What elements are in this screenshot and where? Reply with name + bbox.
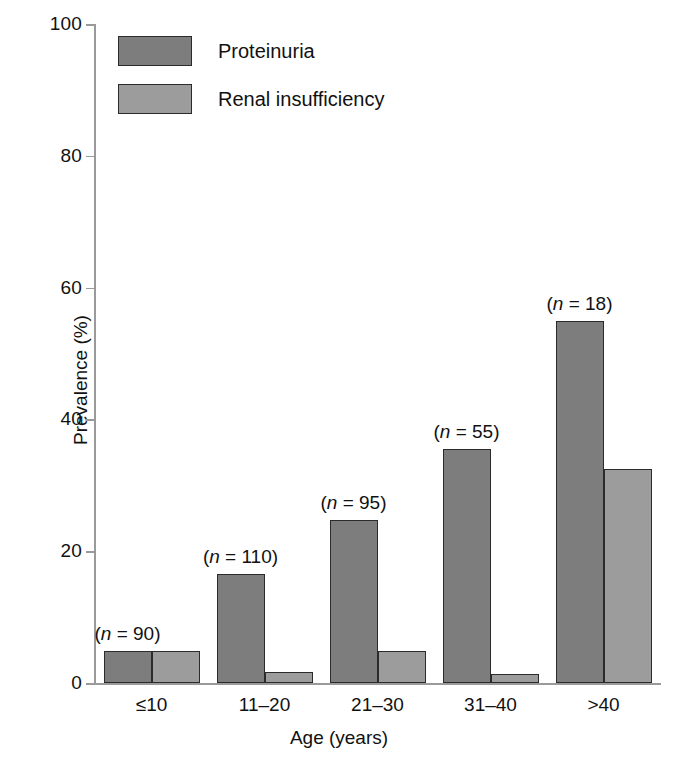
y-tick (86, 24, 95, 26)
x-tick-label: >40 (587, 694, 619, 716)
bar-renal-insufficiency (152, 651, 200, 683)
sample-size-annotation: (n = 18) (546, 293, 612, 315)
bar-proteinuria (556, 321, 604, 683)
x-axis-line (94, 683, 661, 685)
y-tick-label: 20 (22, 540, 82, 562)
bar-renal-insufficiency (491, 674, 539, 683)
y-tick-label: 0 (22, 672, 82, 694)
legend-swatch-proteinuria (118, 36, 192, 66)
y-tick-label: 40 (22, 408, 82, 430)
y-tick (86, 551, 95, 553)
legend: Proteinuria Renal insufficiency (118, 34, 384, 130)
y-tick (86, 288, 95, 290)
x-tick-label: 21–30 (351, 694, 404, 716)
x-tick-label: 11–20 (239, 694, 290, 716)
sample-size-annotation: (n = 95) (320, 492, 386, 514)
bar-renal-insufficiency (265, 672, 313, 683)
bar-proteinuria (217, 574, 265, 683)
legend-item-proteinuria: Proteinuria (118, 34, 384, 68)
x-axis-title: Age (years) (0, 727, 678, 749)
bar-proteinuria (330, 520, 378, 683)
bar-proteinuria (443, 449, 491, 683)
bar-proteinuria (104, 651, 152, 683)
y-tick (86, 156, 95, 158)
legend-swatch-renal-insufficiency (118, 84, 192, 114)
bar-chart: Prevalence (%) Age (years) (n = 90)(n = … (0, 0, 678, 759)
y-tick (86, 683, 95, 685)
sample-size-annotation: (n = 90) (94, 623, 160, 645)
x-tick-label: 31–40 (464, 694, 517, 716)
sample-size-annotation: (n = 110) (203, 546, 278, 568)
y-tick-label: 60 (22, 277, 82, 299)
legend-label-renal-insufficiency: Renal insufficiency (218, 88, 384, 111)
legend-item-renal-insufficiency: Renal insufficiency (118, 82, 384, 116)
bar-renal-insufficiency (378, 651, 426, 683)
legend-label-proteinuria: Proteinuria (218, 40, 315, 63)
x-tick-label: ≤10 (136, 694, 168, 716)
bar-renal-insufficiency (604, 469, 652, 683)
y-tick (86, 419, 95, 421)
sample-size-annotation: (n = 55) (433, 421, 499, 443)
y-tick-label: 80 (22, 145, 82, 167)
y-tick-label: 100 (22, 13, 82, 35)
